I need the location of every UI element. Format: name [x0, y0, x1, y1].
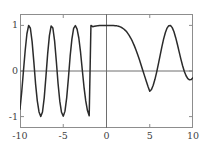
chart-figure: -10-50510 -101 [0, 0, 204, 150]
y-tick-label: -1 [9, 112, 18, 122]
x-tick-label: -10 [12, 131, 27, 141]
x-tick-label: 5 [147, 131, 153, 141]
y-tick-label: 1 [12, 21, 18, 31]
y-tick-label: 0 [12, 66, 18, 76]
chart-title [0, 0, 204, 8]
x-tick-label: 0 [103, 131, 109, 141]
x-tick-label: 10 [187, 131, 199, 141]
plot-svg [20, 14, 193, 128]
x-tick-label: -5 [59, 131, 68, 141]
plot-area [20, 14, 193, 128]
